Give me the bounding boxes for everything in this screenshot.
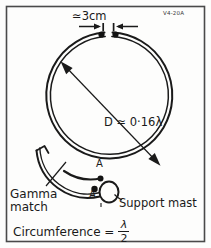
circumference-formula-label: Circumference =	[13, 226, 114, 238]
gamma-match-taper	[64, 171, 101, 179]
circumference-fraction: λ 2	[118, 219, 129, 244]
antenna-figure: ≃3cm V4-20A D ≃ 0·16λ A A Gamma match Su…	[0, 0, 211, 248]
circumference-formula: Circumference = λ 2	[13, 219, 129, 244]
loop-conductor-inner	[50, 36, 168, 154]
gap-arrowhead-right	[116, 23, 123, 29]
fraction-numerator: λ	[119, 219, 130, 231]
gap-terminal-left	[98, 31, 104, 37]
support-mast-label: Support mast	[119, 198, 197, 210]
diameter-label: D ≃ 0·16λ	[104, 117, 162, 129]
gap-terminal-right	[112, 31, 118, 37]
gamma-match-label: Gamma match	[10, 188, 57, 213]
figure-code-label: V4-20A	[163, 11, 184, 17]
terminal-label-a-lower: A	[89, 190, 96, 200]
gamma-match-shorting-stub	[37, 146, 49, 153]
gap-arrowhead-left	[94, 23, 101, 29]
gamma-match-label-line2: match	[10, 201, 57, 214]
terminal-label-a-upper: A	[96, 159, 103, 169]
loop-conductor-outer	[46, 33, 172, 159]
fraction-denominator: 2	[118, 232, 129, 244]
diameter-arrow-shaft	[64, 65, 157, 162]
gamma-match-label-line1: Gamma	[10, 188, 57, 201]
gap-dimension-label: ≃3cm	[72, 11, 106, 23]
support-mast-outline	[100, 182, 119, 203]
